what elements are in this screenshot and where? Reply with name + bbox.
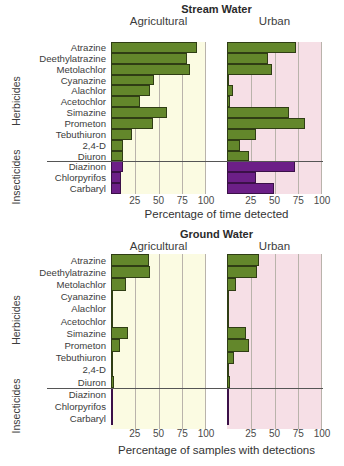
urban-panel (227, 254, 322, 429)
bar-diazinon (111, 388, 113, 400)
bar-chlorpyrifos (111, 400, 113, 412)
bar-diuron (111, 376, 114, 388)
bar-alachlor (111, 303, 113, 315)
bar-diuron (227, 376, 230, 388)
bar-carbaryl (227, 413, 229, 425)
insecticides-group-label: Insecticides (10, 366, 22, 446)
x-tick-label: 50 (263, 428, 287, 439)
gridline (182, 254, 183, 429)
x-tick-label: 75 (286, 428, 310, 439)
bar-tebuthiuron (111, 352, 113, 364)
urban-subtitle: Urban (227, 240, 322, 252)
bar-deethylatrazine (227, 266, 257, 278)
bar-deethylatrazine (111, 266, 150, 278)
agricultural-panel (111, 254, 206, 429)
chart-title: Ground Water (110, 228, 323, 240)
gridline (251, 254, 252, 429)
bar-24d (111, 364, 113, 376)
bar-cyanazine (111, 291, 113, 303)
bar-atrazine (227, 254, 259, 266)
gridline (298, 254, 299, 429)
bar-metolachlor (227, 278, 236, 290)
bar-chlorpyrifos (227, 400, 229, 412)
bar-metolachlor (111, 278, 126, 290)
bar-24d (227, 364, 229, 376)
x-tick-label: 25 (239, 428, 263, 439)
bar-simazine (227, 327, 246, 339)
category-label: Atrazine (0, 255, 106, 266)
bar-tebuthiuron (227, 352, 234, 364)
ground-water-chart: Ground WaterAgriculturalUrban25507510025… (0, 0, 344, 466)
agricultural-subtitle: Agricultural (111, 240, 206, 252)
bar-simazine (111, 327, 128, 339)
bar-acetochlor (227, 315, 229, 327)
x-tick-label: 50 (147, 428, 171, 439)
bar-atrazine (111, 254, 149, 266)
gridline (321, 254, 322, 429)
category-label: Deethylatrazine (0, 267, 106, 278)
bar-diazinon (227, 388, 229, 400)
bar-cyanazine (227, 291, 229, 303)
bar-acetochlor (111, 315, 113, 327)
bar-prometon (227, 339, 249, 351)
bar-alachlor (227, 303, 229, 315)
gridline (205, 254, 206, 429)
gridline (135, 254, 136, 429)
herbicides-group-label: Herbicides (10, 280, 22, 360)
x-tick-label: 100 (310, 428, 334, 439)
group-separator (47, 388, 323, 389)
gridline (159, 254, 160, 429)
gridline (275, 254, 276, 429)
x-tick-label: 75 (170, 428, 194, 439)
x-axis-title: Percentage of samples with detections (110, 444, 323, 456)
bar-carbaryl (111, 413, 113, 425)
x-tick-label: 100 (194, 428, 218, 439)
bar-prometon (111, 339, 120, 351)
x-tick-label: 25 (123, 428, 147, 439)
